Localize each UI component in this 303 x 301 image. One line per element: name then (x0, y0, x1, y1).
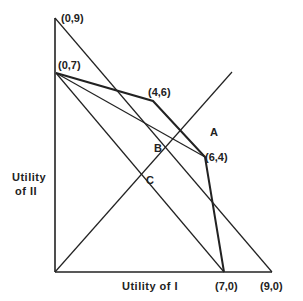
label-point-4-6: (4,6) (148, 86, 171, 98)
y-axis-label-line1: Utility (12, 171, 46, 184)
label-point-9-0: (9,0) (260, 280, 283, 292)
line-09-90 (55, 18, 272, 272)
utility-diagram (0, 0, 303, 301)
label-intersection-c: C (146, 174, 154, 186)
label-point-0-9: (0,9) (61, 12, 84, 24)
label-point-7-0: (7,0) (215, 280, 238, 292)
label-intersection-b: B (154, 142, 162, 154)
x-axis-label: Utility of I (122, 280, 178, 293)
label-intersection-a: A (210, 126, 218, 138)
label-point-6-4: (6,4) (205, 151, 228, 163)
diagonal-45 (55, 72, 232, 272)
label-point-0-7: (0,7) (58, 59, 81, 71)
y-axis-label-line2: of II (15, 185, 37, 198)
line-07-64 (56, 73, 205, 157)
